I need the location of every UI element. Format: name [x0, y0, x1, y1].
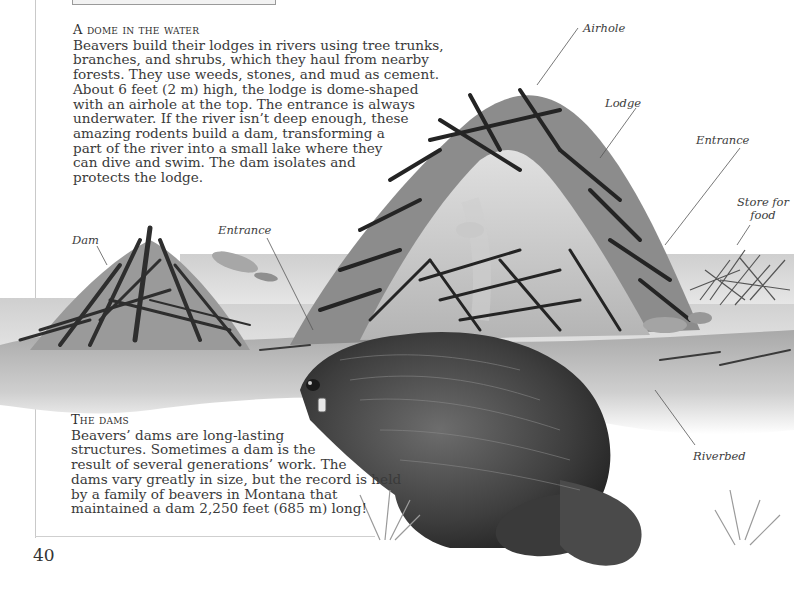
body-line: Beavers’ dams are long-lasting [71, 428, 401, 443]
label-dam: Dam [72, 234, 99, 247]
body-line: with an airhole at the top. The entrance… [73, 97, 444, 112]
body-line: Beavers build their lodges in rivers usi… [73, 38, 444, 53]
body-line: part of the river into a small lake wher… [73, 141, 444, 156]
label-lodge: Lodge [605, 97, 641, 110]
section-heading: A dome in the water [73, 23, 444, 38]
label-entrance-left: Entrance [218, 224, 271, 237]
body-line: structures. Sometimes a dam is the [71, 442, 401, 457]
body-line: branches, and shrubs, which they haul fr… [73, 52, 444, 67]
label-riverbed: Riverbed [693, 450, 746, 463]
body-line: dams vary greatly in size, but the recor… [71, 472, 401, 487]
body-line: can dive and swim. The dam isolates and [73, 155, 444, 170]
body-line: amazing rodents build a dam, transformin… [73, 126, 444, 141]
body-line: About 6 feet (2 m) high, the lodge is do… [73, 82, 444, 97]
label-airhole: Airhole [583, 22, 625, 35]
section-heading: The dams [71, 413, 401, 428]
label-store-line2: food [732, 209, 794, 222]
body-line: forests. They use weeds, stones, and mud… [73, 67, 444, 82]
body-line: protects the lodge. [73, 170, 444, 185]
body-line: underwater. If the river isn’t deep enou… [73, 111, 444, 126]
section-the-dams: The dams Beavers’ dams are long-lasting … [71, 413, 401, 516]
body-line: by a family of beavers in Montana that [71, 487, 401, 502]
label-store-for-food: Store for food [732, 196, 794, 222]
body-line: maintained a dam 2,250 feet (685 m) long… [71, 501, 401, 516]
label-entrance-right: Entrance [696, 134, 749, 147]
body-line: result of several generations’ work. The [71, 457, 401, 472]
section-dome-in-water: A dome in the water Beavers build their … [73, 23, 444, 185]
